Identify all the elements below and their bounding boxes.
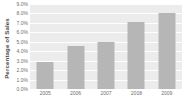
y-axis-tick-label: 7.0% bbox=[17, 20, 28, 25]
bar-slot bbox=[60, 4, 90, 89]
x-axis-tick-label: 2009 bbox=[161, 91, 172, 96]
bar[interactable] bbox=[158, 13, 175, 89]
bar[interactable] bbox=[37, 62, 54, 89]
y-axis-tick-label: 6.0% bbox=[17, 30, 28, 35]
y-axis-tick-label: 9.0% bbox=[17, 2, 28, 7]
y-axis-title-label: Percentage of Sales bbox=[3, 18, 10, 79]
y-axis-tick-label: 3.0% bbox=[17, 58, 28, 63]
bar-chart: Percentage of Sales 0.0%1.0%2.0%3.0%4.0%… bbox=[0, 0, 184, 112]
y-axis-tick-label: 8.0% bbox=[17, 11, 28, 16]
x-axis-tick-label: 2005 bbox=[40, 91, 51, 96]
bars-layer bbox=[30, 4, 182, 89]
bar[interactable] bbox=[97, 42, 114, 89]
bar-slot bbox=[91, 4, 121, 89]
x-axis-tick-label: 2008 bbox=[131, 91, 142, 96]
bar[interactable] bbox=[128, 22, 145, 89]
x-axis-tick-labels: 20052006200720082009 bbox=[30, 90, 182, 102]
x-axis-tick-label: 2007 bbox=[100, 91, 111, 96]
bar-slot bbox=[152, 4, 182, 89]
y-axis-tick-label: 2.0% bbox=[17, 68, 28, 73]
bar-slot bbox=[121, 4, 151, 89]
bar[interactable] bbox=[67, 46, 84, 89]
y-axis-tick-label: 4.0% bbox=[17, 49, 28, 54]
y-axis-tick-label: 0.0% bbox=[17, 87, 28, 92]
y-axis-tick-label: 5.0% bbox=[17, 39, 28, 44]
y-axis-tick-label: 1.0% bbox=[17, 77, 28, 82]
x-axis-tick-label: 2006 bbox=[70, 91, 81, 96]
plot-area bbox=[30, 4, 182, 89]
bar-slot bbox=[30, 4, 60, 89]
y-axis-tick-labels: 0.0%1.0%2.0%3.0%4.0%5.0%6.0%7.0%8.0%9.0% bbox=[11, 4, 29, 89]
